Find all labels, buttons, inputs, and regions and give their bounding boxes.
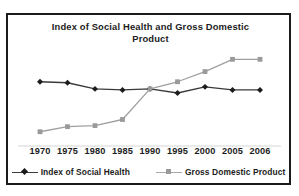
- data-point-marker: [93, 123, 98, 128]
- data-point-marker: [120, 117, 125, 122]
- data-point-marker: [37, 79, 43, 85]
- series-group: [37, 57, 263, 134]
- square-marker-icon: [166, 169, 171, 174]
- legend-item-1[interactable]: Index of Social Health: [12, 167, 130, 177]
- legend-label-2: Gross Domestic Product: [185, 167, 285, 177]
- chart-legend: Index of Social HealthGross Domestic Pro…: [8, 163, 289, 181]
- legend-swatch-1: [12, 168, 38, 177]
- data-point-marker: [38, 129, 43, 134]
- data-point-marker: [175, 79, 180, 84]
- series-line-2: [40, 59, 260, 131]
- screenshot-root: Index of Social Health and Gross Domesti…: [0, 0, 299, 196]
- diamond-marker-icon: [21, 168, 28, 175]
- x-axis-tick-labels: 197019751980198519901995200020052006: [8, 146, 289, 162]
- legend-label-1: Index of Social Health: [41, 167, 130, 177]
- data-point-marker: [65, 124, 70, 129]
- data-point-marker: [230, 57, 235, 62]
- legend-swatch-2: [156, 168, 182, 177]
- data-point-marker: [202, 84, 208, 90]
- data-point-marker: [203, 69, 208, 74]
- x-tick-label-2006: 2006: [240, 146, 280, 156]
- data-point-marker: [258, 57, 263, 62]
- data-point-marker: [120, 87, 126, 93]
- data-point-marker: [230, 87, 236, 93]
- data-point-marker: [65, 80, 71, 86]
- legend-item-2[interactable]: Gross Domestic Product: [156, 167, 285, 177]
- data-point-marker: [257, 87, 263, 93]
- plot-svg: [8, 33, 289, 147]
- data-point-marker: [92, 86, 98, 92]
- data-point-marker: [148, 87, 153, 92]
- chart-figure-frame: Index of Social Health and Gross Domesti…: [6, 13, 291, 185]
- data-point-marker: [175, 90, 181, 96]
- plot-area: [8, 33, 289, 147]
